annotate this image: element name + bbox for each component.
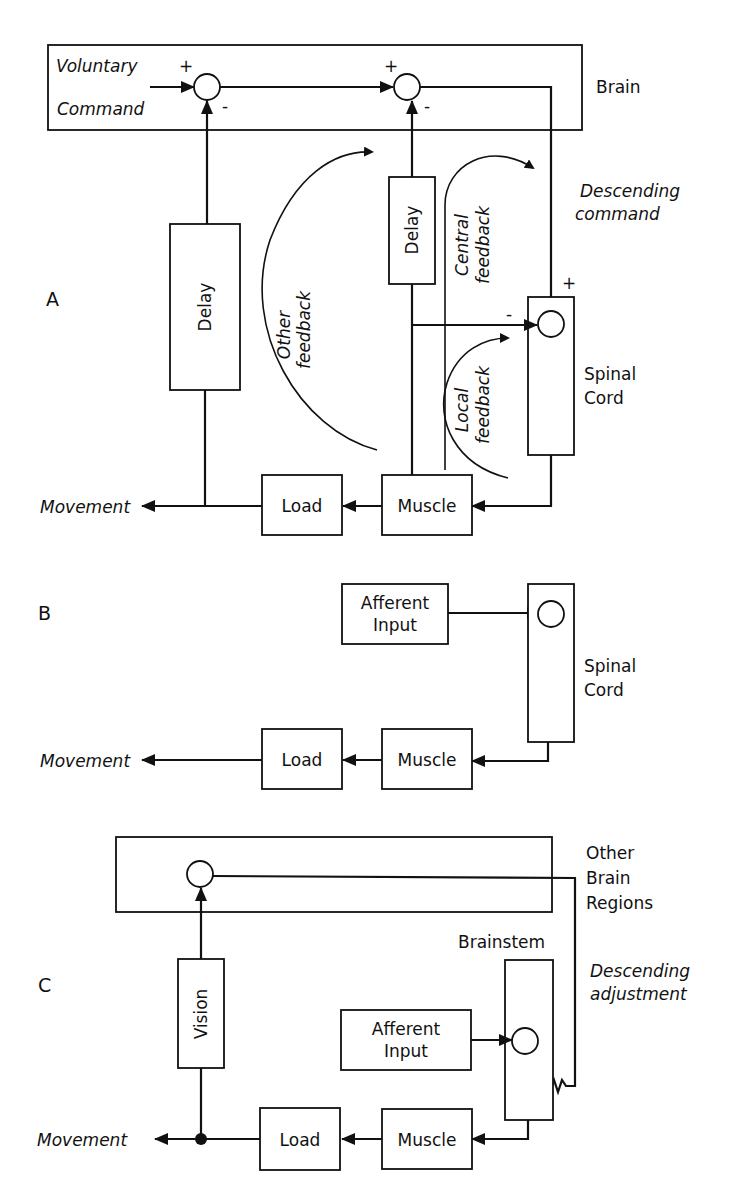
motor-control-diagram: A Brain Voluntary Command + - + - Descen… [0, 0, 752, 1195]
brainstem-to-muscle-arrow [472, 1120, 528, 1139]
muscle-label-c: Muscle [398, 1130, 457, 1150]
spinal-cord-label-b-1: Spinal [584, 656, 636, 676]
voluntary-command-line2: Command [57, 99, 145, 119]
other-brain-label-2: Brain [586, 868, 631, 888]
brain-label: Brain [596, 77, 641, 97]
summing-junction-b [538, 601, 564, 627]
spinal-to-muscle-arrow [472, 455, 551, 506]
sum1-plus: + [179, 56, 193, 76]
local-feedback-line2: feedback [473, 365, 493, 444]
vision-label: Vision [191, 989, 211, 1040]
descending-adjustment-line1: Descending [590, 961, 690, 981]
summing-junction-c-brainstem [512, 1028, 538, 1054]
muscle-label-a: Muscle [398, 496, 457, 516]
sum3-plus: + [562, 273, 576, 293]
panel-b-label: B [38, 602, 51, 624]
other-feedback-curve [262, 152, 377, 450]
movement-label-b: Movement [40, 751, 131, 771]
descending-adjustment-line2: adjustment [590, 984, 688, 1004]
spinal-cord-label-b-2: Cord [584, 680, 624, 700]
movement-label-c: Movement [37, 1130, 128, 1150]
sum1-minus: - [222, 96, 228, 116]
summing-junction-1 [194, 74, 220, 100]
load-label-b: Load [282, 750, 323, 770]
other-feedback-line1: Other [274, 310, 294, 359]
sum3-minus: - [506, 304, 512, 324]
sum2-minus: - [424, 96, 430, 116]
central-feedback-line1: Central [452, 214, 472, 276]
load-label-c: Load [280, 1130, 321, 1150]
spinal-cord-label-2: Cord [584, 388, 624, 408]
spinal-to-muscle-arrow-b [472, 742, 548, 761]
summing-junction-c-brain [187, 861, 213, 887]
other-brain-label-1: Other [586, 843, 634, 863]
local-feedback-line1: Local [452, 388, 472, 433]
summing-junction-3 [538, 311, 564, 337]
delay-mid-label: Delay [402, 206, 422, 255]
panel-c: C Other Brain Regions Descending adjustm… [37, 837, 690, 1170]
afferent-label-c-1: Afferent [372, 1019, 441, 1039]
delay-left-label: Delay [195, 283, 215, 332]
voluntary-command-line1: Voluntary [56, 56, 138, 76]
other-brain-label-3: Regions [586, 893, 653, 913]
panel-c-label: C [38, 974, 51, 996]
movement-label-a: Movement [40, 497, 131, 517]
sum2-plus: + [384, 56, 398, 76]
afferent-label-b-1: Afferent [361, 593, 430, 613]
summing-junction-2 [394, 74, 420, 100]
brainstem-label: Brainstem [458, 932, 545, 952]
muscle-label-b: Muscle [398, 750, 457, 770]
load-label-a: Load [282, 496, 323, 516]
other-feedback-line2: feedback [294, 290, 314, 369]
panel-a: A Brain Voluntary Command + - + - Descen… [40, 45, 680, 535]
afferent-label-c-2: Input [384, 1041, 428, 1061]
panel-b: B Afferent Input Spinal Cord Muscle Load… [38, 584, 636, 789]
descending-command-line1: Descending [580, 181, 680, 201]
descending-command-line2: command [575, 204, 660, 224]
afferent-label-b-2: Input [373, 615, 417, 635]
panel-a-label: A [46, 288, 59, 310]
spinal-cord-label-1: Spinal [584, 364, 636, 384]
other-brain-regions-box [116, 837, 552, 912]
central-feedback-line2: feedback [473, 205, 493, 284]
